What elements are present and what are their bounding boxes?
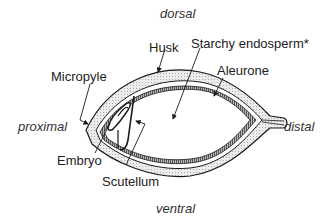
label-aleurone: Aleurone — [217, 63, 269, 78]
label-micropyle: Micropyle — [51, 69, 107, 84]
label-starchy-endosperm: Starchy endosperm* — [191, 36, 309, 51]
label-ventral: ventral — [156, 201, 196, 216]
grain-diagram: dorsal Husk Starchy endosperm* Micropyle… — [0, 0, 335, 222]
label-distal: distal — [284, 119, 315, 134]
label-embryo: Embryo — [57, 153, 102, 168]
label-dorsal: dorsal — [160, 6, 197, 21]
label-proximal: proximal — [17, 119, 68, 134]
micropyle-leader — [80, 84, 90, 124]
label-husk: Husk — [149, 40, 179, 55]
label-scutellum: Scutellum — [102, 174, 159, 189]
